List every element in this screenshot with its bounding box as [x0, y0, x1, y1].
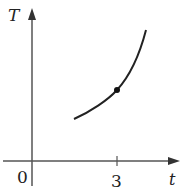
tick-label-3: 3: [111, 171, 122, 191]
y-axis-label: T: [8, 5, 21, 25]
origin-label: 0: [17, 167, 28, 187]
x-axis-label: t: [169, 170, 176, 189]
x-axis-arrow-icon: [168, 157, 180, 165]
point-at-3: [114, 87, 120, 93]
y-axis-arrow-icon: [28, 8, 36, 20]
chart: T t 0 3: [0, 0, 185, 194]
curve: [74, 30, 146, 119]
